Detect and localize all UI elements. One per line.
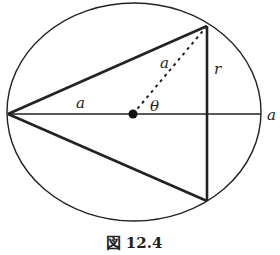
triangle-lower-side xyxy=(8,114,207,201)
diagram-canvas: a a r θ a 図 12.4 xyxy=(0,0,280,255)
center-point xyxy=(129,110,138,119)
label-angle: θ xyxy=(150,97,159,115)
label-height: r xyxy=(214,60,222,78)
dashed-radius xyxy=(133,26,207,114)
figure-caption: 図 12.4 xyxy=(106,234,163,252)
triangle-upper-side xyxy=(8,26,207,114)
label-right-end: a xyxy=(267,106,276,124)
label-hypotenuse: a xyxy=(160,54,169,72)
label-left-radius: a xyxy=(76,94,85,112)
